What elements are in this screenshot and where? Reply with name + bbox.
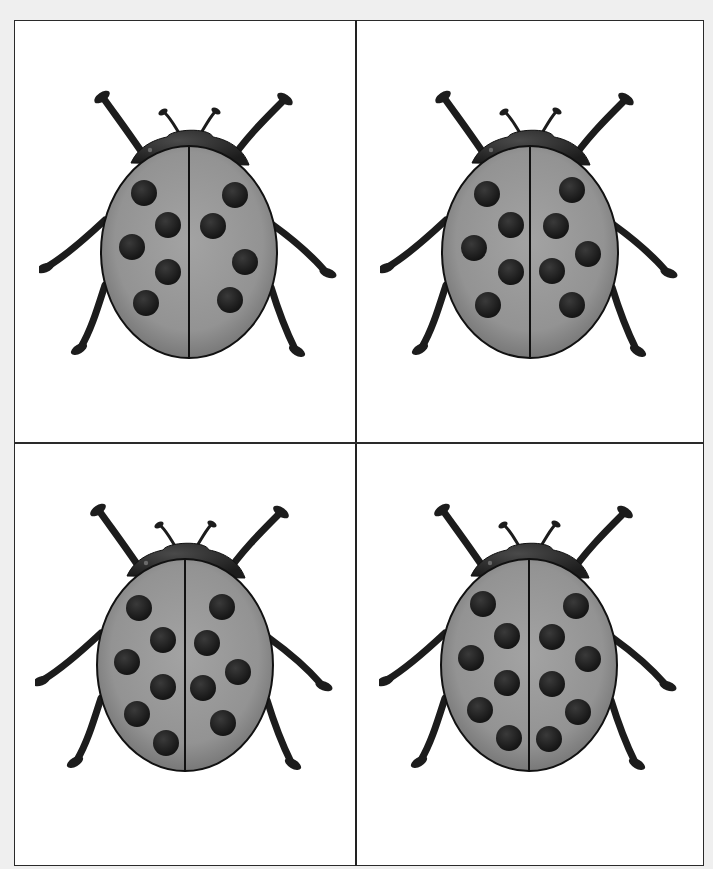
spot-icon [539, 258, 565, 284]
spot-icon [539, 671, 565, 697]
spot-icon [496, 725, 522, 751]
spot-icon [155, 259, 181, 285]
antennae [497, 519, 562, 546]
spot-icon [575, 646, 601, 672]
spot-icon [222, 182, 248, 208]
spot-icon [494, 623, 520, 649]
antennae [153, 519, 218, 546]
ladybug-illustration [380, 55, 680, 375]
spot-icon [133, 290, 159, 316]
spot-icon [131, 180, 157, 206]
spot-icon [470, 591, 496, 617]
ladybug-illustration [39, 55, 339, 375]
ladybug-card-3 [35, 468, 335, 788]
spot-icon [150, 627, 176, 653]
spot-icon [210, 710, 236, 736]
spot-icon [217, 287, 243, 313]
spot-icon [194, 630, 220, 656]
spot-icon [150, 674, 176, 700]
ladybug-card-1 [39, 55, 339, 375]
ladybug-card-2 [380, 55, 680, 375]
spot-icon [225, 659, 251, 685]
spot-icon [114, 649, 140, 675]
spot-icon [467, 697, 493, 723]
spot-icon [563, 593, 589, 619]
spot-icon [190, 675, 216, 701]
spot-icon [209, 594, 235, 620]
spot-icon [565, 699, 591, 725]
spot-icon [200, 213, 226, 239]
spot-icon [124, 701, 150, 727]
ladybug-illustration [35, 468, 335, 788]
spot-icon [539, 624, 565, 650]
spot-icon [559, 177, 585, 203]
spot-icon [461, 235, 487, 261]
ladybug-illustration [379, 468, 679, 788]
spot-icon [458, 645, 484, 671]
spot-icon [155, 212, 181, 238]
spot-icon [119, 234, 145, 260]
spot-icon [559, 292, 585, 318]
horizontal-divider [14, 442, 704, 444]
spot-icon [475, 292, 501, 318]
antennae [157, 106, 222, 133]
spot-icon [498, 259, 524, 285]
spot-icon [153, 730, 179, 756]
spot-icon [232, 249, 258, 275]
spot-icon [126, 595, 152, 621]
worksheet-page [0, 0, 713, 869]
spot-icon [543, 213, 569, 239]
spot-icon [536, 726, 562, 752]
spot-icon [494, 670, 520, 696]
ladybug-card-4 [379, 468, 679, 788]
antennae [498, 106, 563, 133]
spot-icon [474, 181, 500, 207]
spot-icon [575, 241, 601, 267]
spot-icon [498, 212, 524, 238]
